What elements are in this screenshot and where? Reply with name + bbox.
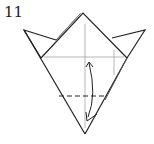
origami-diagram: 11 [0,0,154,144]
layer-edge-right [105,58,127,100]
layer-edge-left-2 [57,13,81,39]
left-ear [24,30,56,58]
left-edge [24,30,85,134]
right-ear [112,30,145,58]
fold-arrow-icon [88,63,93,117]
origami-figure [0,0,154,144]
